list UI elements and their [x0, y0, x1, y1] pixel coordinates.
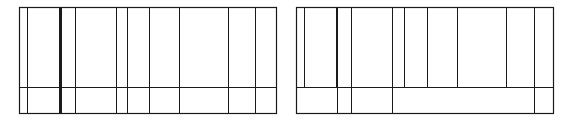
grid-frame — [297, 8, 554, 114]
right-grid-lines — [0, 0, 571, 126]
right-table-grid — [0, 0, 571, 126]
